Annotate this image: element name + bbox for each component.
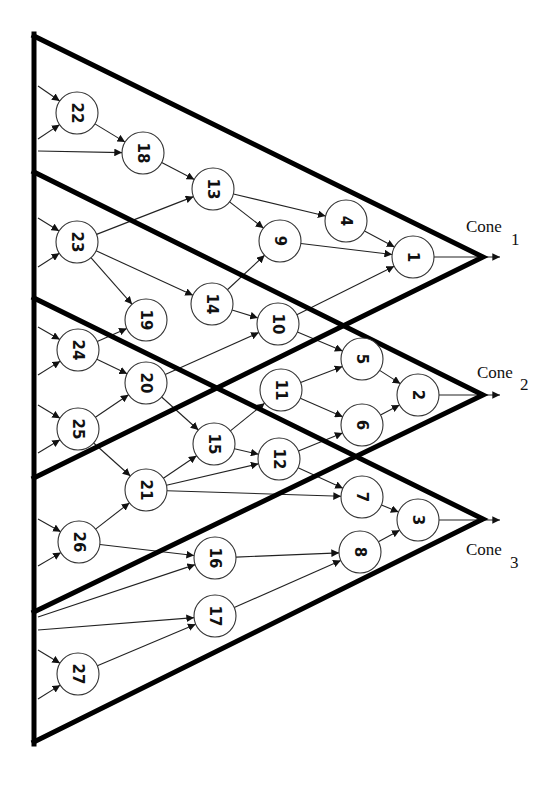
edge-11-6 xyxy=(300,398,342,416)
node-19: 19 xyxy=(125,299,167,341)
node-1: 1 xyxy=(392,236,434,278)
cone3-subscript: 3 xyxy=(510,553,519,572)
node-23: 23 xyxy=(56,221,98,263)
node-10: 10 xyxy=(257,303,299,345)
node-label: 8 xyxy=(351,547,369,557)
edge-6-2 xyxy=(381,405,400,415)
edge-15-12 xyxy=(234,449,258,455)
node-26: 26 xyxy=(58,521,100,563)
node-label: 2 xyxy=(409,390,427,400)
node-16: 16 xyxy=(194,537,236,579)
node-7: 7 xyxy=(341,476,383,518)
edge-26-16 xyxy=(100,544,194,555)
node-label: 24 xyxy=(69,340,87,361)
node-8: 8 xyxy=(339,531,381,573)
edge-25-20 xyxy=(95,395,128,417)
node-label: 3 xyxy=(409,515,427,525)
node-13: 13 xyxy=(192,168,234,210)
node-24: 24 xyxy=(57,329,99,371)
edge-13-4 xyxy=(233,194,325,216)
node-label: 22 xyxy=(68,103,86,124)
input-edge-25 xyxy=(38,440,60,453)
node-label: 15 xyxy=(205,434,223,455)
node-label: 4 xyxy=(337,216,355,226)
input-edge-25 xyxy=(38,405,60,418)
edge-21-7 xyxy=(167,491,341,497)
edge-18-13 xyxy=(162,163,195,180)
input-edge-26 xyxy=(38,519,61,532)
input-edge-23 xyxy=(38,218,59,231)
node-label: 25 xyxy=(69,419,87,440)
edge-24-20 xyxy=(97,359,127,374)
input-edge-27 xyxy=(38,650,60,663)
node-label: 9 xyxy=(271,236,289,246)
input-edge-24 xyxy=(38,327,60,340)
node-label: 7 xyxy=(353,492,371,502)
node-label: 19 xyxy=(137,310,155,331)
node-4: 4 xyxy=(325,200,367,242)
cone1-subscript: 1 xyxy=(511,230,520,249)
edge-22-18 xyxy=(95,124,125,142)
node-2: 2 xyxy=(397,374,439,416)
node-18: 18 xyxy=(122,132,164,174)
node-label: 26 xyxy=(70,532,88,553)
node-14: 14 xyxy=(191,283,233,325)
node-3: 3 xyxy=(397,499,439,541)
node-label: 23 xyxy=(68,232,86,253)
input-edge-26 xyxy=(38,553,61,566)
node-6: 6 xyxy=(341,404,383,446)
edge-9-1 xyxy=(301,244,392,255)
node-label: 10 xyxy=(269,314,287,335)
node-15: 15 xyxy=(193,423,235,465)
node-label: 1 xyxy=(404,252,422,262)
node-label: 14 xyxy=(203,294,221,315)
edge-23-14 xyxy=(96,251,193,295)
node-25: 25 xyxy=(57,408,99,450)
node-label: 5 xyxy=(353,354,371,364)
node-21: 21 xyxy=(125,469,167,511)
node-20: 20 xyxy=(125,362,167,404)
edge-26-21 xyxy=(96,503,130,529)
node-label: 18 xyxy=(134,143,152,164)
edge-21-15 xyxy=(163,456,196,478)
input-edge-23 xyxy=(38,253,59,267)
node-label: 16 xyxy=(206,548,224,569)
node-12: 12 xyxy=(258,438,300,480)
input-edge-27 xyxy=(38,685,60,699)
edge-27-17 xyxy=(97,624,195,666)
node-label: 17 xyxy=(206,606,224,627)
nodes-layer: 1234567891011121314151617181920212223242… xyxy=(56,92,439,695)
input-edge-22 xyxy=(38,125,60,139)
node-label: 27 xyxy=(69,664,87,685)
cone-diagram: 1234567891011121314151617181920212223242… xyxy=(0,0,558,786)
input-edge-24 xyxy=(38,361,60,375)
node-11: 11 xyxy=(260,369,302,411)
node-label: 13 xyxy=(204,179,222,200)
node-label: 12 xyxy=(270,449,288,470)
cone3-label: Cone xyxy=(466,540,502,559)
node-label: 21 xyxy=(137,480,155,501)
edge-16-8 xyxy=(236,553,339,557)
cone1-label: Cone xyxy=(466,217,502,236)
edge-17-8 xyxy=(234,560,341,607)
edge-7-3 xyxy=(381,505,398,512)
input-edge-22 xyxy=(38,86,60,101)
node-9: 9 xyxy=(259,220,301,262)
node-17: 17 xyxy=(194,595,236,637)
node-5: 5 xyxy=(341,338,383,380)
edge-11-5 xyxy=(301,367,343,383)
cone2-subscript: 2 xyxy=(520,375,529,394)
edge-8-3 xyxy=(378,530,399,542)
edge-4-1 xyxy=(364,231,394,247)
node-27: 27 xyxy=(57,653,99,695)
input-edge-17 xyxy=(38,618,194,630)
cone2-label: Cone xyxy=(477,363,513,382)
node-label: 20 xyxy=(137,373,155,394)
node-22: 22 xyxy=(56,92,98,134)
edge-14-10 xyxy=(232,310,258,318)
edge-13-9 xyxy=(230,202,264,228)
input-edge-18 xyxy=(38,151,122,153)
edge-5-2 xyxy=(380,370,401,383)
node-label: 11 xyxy=(272,380,290,401)
node-label: 6 xyxy=(353,420,371,430)
